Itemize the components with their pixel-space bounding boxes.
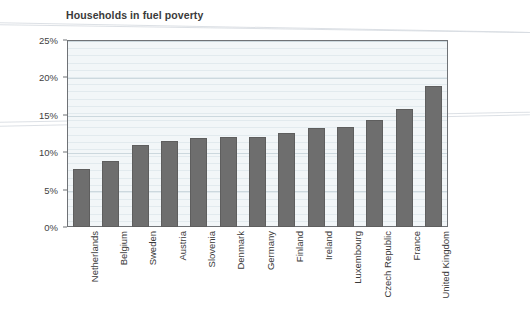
x-axis-tick-label: Denmark [232, 231, 242, 270]
chart-title: Households in fuel poverty [66, 9, 203, 21]
x-axis-tick-label: Belgium [115, 231, 125, 265]
x-axis-tick-label-text: United Kingdom [441, 231, 451, 299]
x-axis-tick-label: Ireland [320, 231, 330, 260]
x-axis-tick-label-text: Germany [266, 231, 276, 270]
x-axis-tick-label: Czech Republic [379, 231, 389, 298]
x-axis-tick-label-text: Czech Republic [383, 231, 393, 298]
x-axis-tick-label-text: Netherlands [90, 231, 100, 282]
y-axis-tick-label: 10% [0, 147, 58, 158]
bar [396, 109, 413, 227]
x-axis-tick-label: Luxembourg [349, 231, 359, 284]
bar [337, 127, 354, 227]
x-axis-tick-label-text: Slovenia [207, 231, 217, 267]
bar [73, 169, 90, 227]
x-axis-tick-label: Germany [262, 231, 272, 270]
x-axis-tick-label: France [408, 231, 418, 261]
x-axis-tick-label: Sweden [144, 231, 154, 265]
x-axis-tick-label: Austria [174, 231, 184, 261]
x-axis-tick-label: United Kingdom [437, 231, 447, 299]
x-axis-tick-label: Netherlands [86, 231, 96, 282]
x-axis-tick-label: Finland [291, 231, 301, 262]
y-axis-tick-label: 15% [0, 109, 58, 120]
x-axis-tick-label-text: Belgium [119, 231, 129, 265]
y-axis-tick-label: 20% [0, 72, 58, 83]
x-axis-tick-label-text: Ireland [324, 231, 334, 260]
x-axis-tick-label-text: Sweden [148, 231, 158, 265]
x-axis-tick-label-text: Luxembourg [353, 231, 363, 284]
bar [278, 133, 295, 227]
x-axis-tick-label-text: France [412, 231, 422, 261]
bar-series [67, 40, 448, 227]
bar [132, 145, 149, 227]
x-axis-tick-label-text: Finland [295, 231, 305, 262]
x-axis-tick-label: Slovenia [203, 231, 213, 267]
bar [425, 86, 442, 227]
bar [190, 138, 207, 227]
y-axis-tick-label: 5% [0, 184, 58, 195]
bar [366, 120, 383, 227]
bar [220, 137, 237, 227]
bar [161, 141, 178, 227]
x-axis-labels: NetherlandsBelgiumSwedenAustriaSloveniaD… [67, 231, 448, 326]
y-axis-tick-label: 0% [0, 222, 58, 233]
bar [249, 137, 266, 228]
x-axis-tick-label-text: Denmark [236, 231, 246, 270]
bar [308, 128, 325, 227]
x-axis-tick-label-text: Austria [178, 231, 188, 261]
y-axis-tick-label: 25% [0, 35, 58, 46]
bar [102, 161, 119, 227]
